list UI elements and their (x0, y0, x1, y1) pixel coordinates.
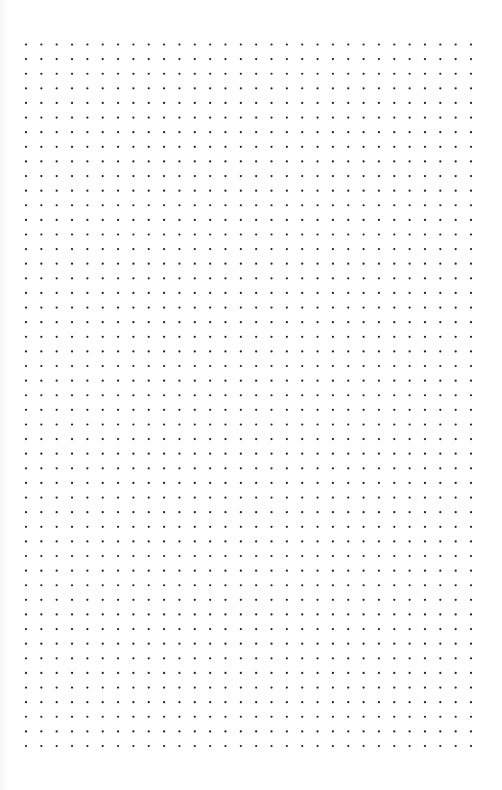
grid-dot (194, 131, 196, 133)
grid-dot (362, 526, 364, 528)
grid-dot (117, 394, 119, 396)
grid-dot (455, 584, 457, 586)
grid-dot (470, 277, 472, 279)
grid-dot (25, 482, 27, 484)
grid-dot (71, 686, 73, 688)
grid-dot (301, 394, 303, 396)
grid-dot (102, 306, 104, 308)
grid-dot (286, 599, 288, 601)
grid-dot (102, 263, 104, 265)
grid-dot (86, 233, 88, 235)
grid-dot (424, 716, 426, 718)
grid-dot (102, 555, 104, 557)
grid-dot (25, 570, 27, 572)
grid-dot (194, 321, 196, 323)
grid-dot (470, 555, 472, 557)
grid-dot (240, 745, 242, 747)
grid-dot (102, 248, 104, 250)
grid-dot (362, 438, 364, 440)
grid-dot (178, 672, 180, 674)
grid-dot (424, 409, 426, 411)
grid-dot (301, 686, 303, 688)
grid-dot (347, 87, 349, 89)
grid-dot (148, 43, 150, 45)
grid-dot (470, 248, 472, 250)
grid-dot (194, 409, 196, 411)
grid-dot (347, 496, 349, 498)
grid-dot (255, 190, 257, 192)
grid-dot (209, 657, 211, 659)
grid-dot (255, 321, 257, 323)
grid-dot (194, 306, 196, 308)
grid-dot (470, 87, 472, 89)
grid-dot (71, 233, 73, 235)
grid-dot (332, 701, 334, 703)
grid-dot (347, 131, 349, 133)
grid-dot (332, 380, 334, 382)
grid-dot (25, 219, 27, 221)
grid-dot (117, 540, 119, 542)
grid-dot (71, 628, 73, 630)
grid-dot (378, 570, 380, 572)
dot-grid (0, 0, 502, 790)
grid-dot (409, 657, 411, 659)
grid-dot (40, 190, 42, 192)
grid-dot (209, 555, 211, 557)
grid-dot (424, 540, 426, 542)
grid-dot (470, 116, 472, 118)
grid-dot (316, 380, 318, 382)
grid-dot (117, 701, 119, 703)
grid-dot (270, 657, 272, 659)
grid-dot (194, 175, 196, 177)
grid-dot (439, 613, 441, 615)
grid-dot (71, 160, 73, 162)
grid-dot (393, 146, 395, 148)
grid-dot (209, 321, 211, 323)
grid-dot (439, 672, 441, 674)
grid-dot (316, 745, 318, 747)
grid-dot (209, 131, 211, 133)
grid-dot (455, 116, 457, 118)
grid-dot (393, 190, 395, 192)
grid-dot (132, 73, 134, 75)
grid-dot (148, 613, 150, 615)
grid-dot (71, 526, 73, 528)
grid-dot (240, 394, 242, 396)
grid-dot (86, 584, 88, 586)
grid-dot (362, 102, 364, 104)
grid-dot (132, 58, 134, 60)
grid-dot (255, 336, 257, 338)
grid-dot (194, 233, 196, 235)
grid-dot (56, 628, 58, 630)
grid-dot (424, 146, 426, 148)
grid-dot (56, 263, 58, 265)
grid-dot (148, 160, 150, 162)
grid-dot (362, 219, 364, 221)
grid-dot (362, 277, 364, 279)
grid-dot (393, 292, 395, 294)
grid-dot (393, 643, 395, 645)
grid-dot (332, 599, 334, 601)
grid-dot (132, 584, 134, 586)
grid-dot (148, 482, 150, 484)
grid-dot (286, 540, 288, 542)
grid-dot (86, 277, 88, 279)
grid-dot (148, 716, 150, 718)
grid-dot (148, 146, 150, 148)
grid-dot (40, 672, 42, 674)
grid-dot (117, 438, 119, 440)
grid-dot (178, 116, 180, 118)
grid-dot (117, 745, 119, 747)
grid-dot (301, 380, 303, 382)
grid-dot (378, 58, 380, 60)
grid-dot (347, 146, 349, 148)
grid-dot (209, 58, 211, 60)
grid-dot (56, 146, 58, 148)
grid-dot (240, 453, 242, 455)
grid-dot (393, 496, 395, 498)
grid-dot (470, 350, 472, 352)
grid-dot (224, 555, 226, 557)
grid-dot (194, 643, 196, 645)
grid-dot (409, 730, 411, 732)
grid-dot (439, 248, 441, 250)
